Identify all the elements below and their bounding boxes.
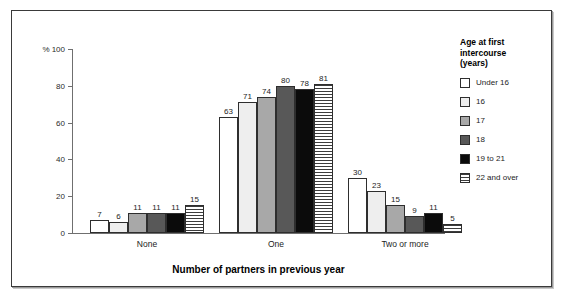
- y-tick-mark: [68, 159, 72, 160]
- bar-slot: 71: [238, 49, 257, 233]
- bar-group: 3023159115Two or more: [348, 49, 462, 233]
- bar[interactable]: 11: [147, 213, 166, 233]
- y-tick-label: 40: [56, 155, 65, 164]
- legend-swatch-icon: [460, 97, 470, 107]
- bar[interactable]: 30: [348, 178, 367, 233]
- legend-title-line: (years): [460, 58, 550, 69]
- legend-item-label: 19 to 21: [476, 154, 505, 163]
- bar-slot: 74: [257, 49, 276, 233]
- bar-value-label: 6: [116, 212, 120, 221]
- bar[interactable]: 11: [166, 213, 185, 233]
- x-axis-line: [72, 233, 445, 234]
- bar[interactable]: 9: [405, 216, 424, 233]
- bar-slot: 15: [185, 49, 204, 233]
- bar-slot: 15: [386, 49, 405, 233]
- x-tick-label: None: [137, 239, 157, 249]
- bar[interactable]: 78: [295, 89, 314, 233]
- legend-item-label: 18: [476, 135, 485, 144]
- bar[interactable]: 15: [185, 205, 204, 233]
- bar-group: 637174807881One: [219, 49, 333, 233]
- bar-group-bars: 7611111115: [90, 49, 204, 233]
- y-tick-label: %100: [43, 45, 65, 54]
- bar[interactable]: 81: [314, 84, 333, 233]
- legend-swatch-icon: [460, 116, 470, 126]
- legend-title-line: Age at first: [460, 37, 550, 48]
- bar-value-label: 80: [281, 76, 290, 85]
- bar-slot: 81: [314, 49, 333, 233]
- bar-value-label: 11: [429, 203, 437, 212]
- legend-title-line: intercourse: [460, 48, 550, 59]
- bar-value-label: 23: [372, 181, 381, 190]
- bar-slot: 11: [166, 49, 185, 233]
- y-tick-mark: [68, 86, 72, 87]
- legend-item-label: 22 and over: [476, 173, 518, 182]
- y-tick-label: 60: [56, 118, 65, 127]
- chart-frame: 020406080%100 7611111115None637174807881…: [11, 10, 552, 287]
- legend-swatch-icon: [460, 173, 470, 183]
- y-tick-value: 100: [52, 45, 65, 54]
- legend-items: Under 1616171819 to 2122 and over: [460, 78, 550, 183]
- x-tick-label: Two or more: [381, 239, 428, 249]
- bar-value-label: 63: [224, 107, 233, 116]
- bar-slot: 11: [424, 49, 443, 233]
- bar-slot: 7: [90, 49, 109, 233]
- bar-slot: 80: [276, 49, 295, 233]
- bar-group-bars: 637174807881: [219, 49, 333, 233]
- bar[interactable]: 80: [276, 86, 295, 233]
- y-tick-mark: [68, 123, 72, 124]
- bar-value-label: 81: [319, 74, 328, 83]
- y-tick-mark: [68, 49, 72, 50]
- bar-value-label: 15: [190, 195, 199, 204]
- legend-swatch-icon: [460, 135, 470, 145]
- y-tick-mark: [68, 196, 72, 197]
- bar-value-label: 30: [353, 168, 362, 177]
- bar-slot: 9: [405, 49, 424, 233]
- bar[interactable]: 15: [386, 205, 405, 233]
- chart-legend: Age at firstintercourse(years) Under 161…: [460, 37, 550, 192]
- bar-value-label: 7: [97, 210, 101, 219]
- bar-value-label: 71: [243, 92, 252, 101]
- bar-slot: 63: [219, 49, 238, 233]
- bar[interactable]: 74: [257, 97, 276, 233]
- y-axis-line: [72, 49, 73, 233]
- bar-slot: 6: [109, 49, 128, 233]
- y-tick-mark: [68, 233, 72, 234]
- y-axis-unit: %: [43, 45, 50, 54]
- x-tick-label: One: [268, 239, 284, 249]
- legend-item[interactable]: 16: [460, 97, 550, 107]
- bar-value-label: 5: [450, 214, 454, 223]
- legend-item-label: Under 16: [476, 78, 509, 87]
- legend-item[interactable]: 17: [460, 116, 550, 126]
- bar[interactable]: 11: [128, 213, 147, 233]
- bar-value-label: 74: [262, 87, 271, 96]
- legend-item[interactable]: 19 to 21: [460, 154, 550, 164]
- bar-value-label: 11: [133, 203, 141, 212]
- plot-area: 020406080%100 7611111115None637174807881…: [72, 49, 445, 233]
- y-tick-label: 80: [56, 81, 65, 90]
- bar[interactable]: 11: [424, 213, 443, 233]
- bar-group: 7611111115None: [90, 49, 204, 233]
- bar-group-bars: 3023159115: [348, 49, 462, 233]
- bar[interactable]: 7: [90, 220, 109, 233]
- legend-item[interactable]: Under 16: [460, 78, 550, 88]
- legend-swatch-icon: [460, 154, 470, 164]
- bar-slot: 30: [348, 49, 367, 233]
- legend-item[interactable]: 18: [460, 135, 550, 145]
- bar[interactable]: 71: [238, 102, 257, 233]
- bar-slot: 11: [147, 49, 166, 233]
- legend-title: Age at firstintercourse(years): [460, 37, 550, 69]
- bar[interactable]: 23: [367, 191, 386, 233]
- bar[interactable]: 5: [443, 224, 462, 233]
- bar-slot: 11: [128, 49, 147, 233]
- bar-value-label: 11: [171, 203, 179, 212]
- bar-value-label: 11: [152, 203, 160, 212]
- legend-item[interactable]: 22 and over: [460, 173, 550, 183]
- bar[interactable]: 63: [219, 117, 238, 233]
- bar-slot: 78: [295, 49, 314, 233]
- bar-value-label: 9: [412, 206, 416, 215]
- y-tick-label: 0: [61, 229, 65, 238]
- bar[interactable]: 6: [109, 222, 128, 233]
- legend-item-label: 16: [476, 97, 485, 106]
- bar-value-label: 15: [391, 195, 400, 204]
- x-axis-title: Number of partners in previous year: [72, 264, 445, 275]
